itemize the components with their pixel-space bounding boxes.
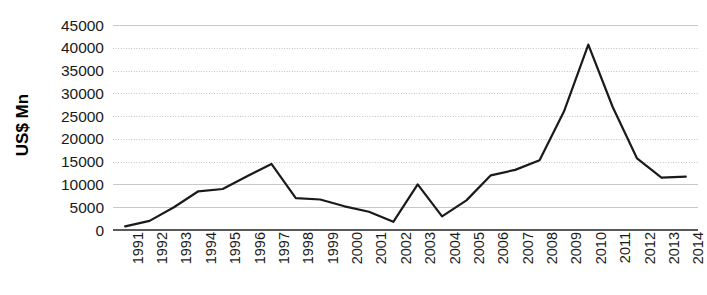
- x-axis-tick-2011: 2011: [618, 232, 633, 263]
- x-axis-tick-2007: 2007: [521, 232, 536, 264]
- y-axis-tick-30000: 30000: [61, 86, 104, 102]
- x-axis-tick-1998: 1998: [301, 232, 316, 264]
- x-axis-tick-2006: 2006: [496, 232, 511, 264]
- x-axis-tick-2002: 2002: [399, 232, 414, 264]
- y-axis-tick-5000: 5000: [70, 200, 104, 216]
- y-axis-tick-40000: 40000: [61, 40, 104, 56]
- x-axis-tick-1993: 1993: [179, 232, 194, 264]
- series-line-us-mn: [113, 25, 698, 230]
- x-axis-tick-2004: 2004: [448, 232, 463, 264]
- x-axis-tick-2003: 2003: [423, 232, 438, 264]
- x-axis-tick-2005: 2005: [472, 232, 487, 264]
- plot-area: [113, 25, 698, 230]
- x-axis-tick-labels: 1991199219931994199519961997199819992000…: [113, 232, 698, 294]
- y-axis-tick-45000: 45000: [61, 18, 104, 34]
- x-axis-tick-2008: 2008: [545, 232, 560, 264]
- x-axis-tick-1996: 1996: [253, 232, 268, 264]
- x-axis-tick-2009: 2009: [569, 232, 584, 264]
- x-axis-tick-1991: 1991: [131, 232, 146, 264]
- x-axis-tick-1995: 1995: [228, 232, 243, 264]
- y-axis-tick-0: 0: [95, 223, 104, 239]
- y-axis-tick-20000: 20000: [61, 131, 104, 147]
- x-axis-tick-2010: 2010: [594, 232, 609, 264]
- y-axis-tick-10000: 10000: [61, 177, 104, 193]
- y-axis-tick-15000: 15000: [61, 154, 104, 170]
- x-axis-tick-1992: 1992: [155, 232, 170, 264]
- x-axis-tick-1994: 1994: [204, 232, 219, 264]
- x-axis-tick-1999: 1999: [326, 232, 341, 264]
- x-axis-tick-2000: 2000: [350, 232, 365, 264]
- y-axis-tick-labels: 0500010000150002000025000300003500040000…: [30, 0, 108, 295]
- x-axis-tick-2001: 2001: [374, 232, 389, 264]
- x-axis-tick-2012: 2012: [643, 232, 658, 264]
- x-axis-tick-1997: 1997: [277, 232, 292, 264]
- line-chart: US$ Mn 050001000015000200002500030000350…: [0, 0, 707, 295]
- y-axis-tick-35000: 35000: [61, 63, 104, 79]
- y-axis-tick-25000: 25000: [61, 109, 104, 125]
- x-axis-tick-2013: 2013: [667, 232, 682, 264]
- x-axis-tick-2014: 2014: [691, 232, 706, 264]
